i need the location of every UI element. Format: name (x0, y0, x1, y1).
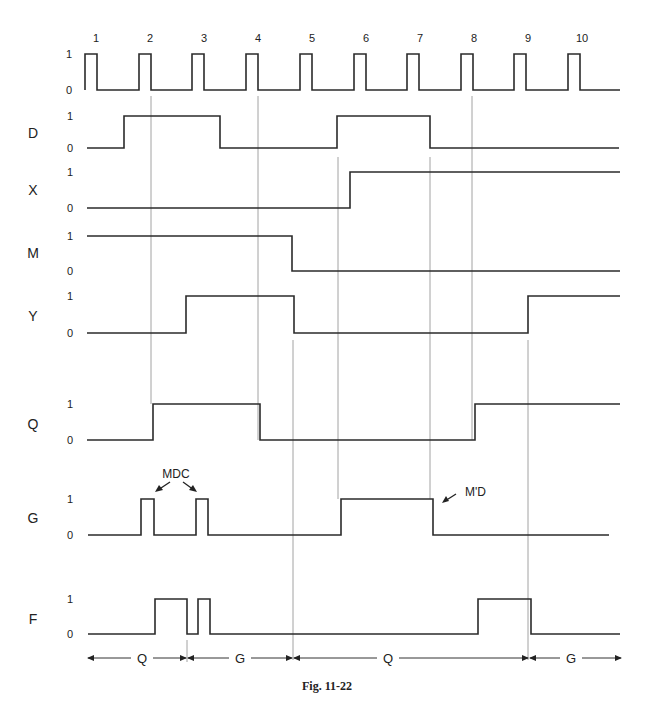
level-1-label: 1 (67, 290, 73, 302)
signal-name: X (28, 182, 38, 198)
segment-label: Q (383, 651, 393, 666)
segment-label: G (566, 651, 576, 666)
arrowhead-right-icon (286, 655, 293, 661)
segment-label: Q (137, 651, 147, 666)
clock-pulse-number: 4 (255, 32, 261, 44)
level-0-label: 0 (67, 142, 73, 154)
clock-pulse-number: 6 (363, 32, 369, 44)
signal-g: G10 (28, 493, 609, 541)
signal-name: D (28, 125, 38, 141)
level-1-label: 1 (67, 110, 73, 122)
level-1-label: 1 (67, 230, 73, 242)
clock-pulse-number: 10 (576, 32, 588, 44)
waveform (87, 296, 620, 333)
figure-caption: Fig. 11-22 (302, 679, 352, 693)
signal-name: Q (28, 416, 39, 432)
level-0-label: 0 (67, 327, 73, 339)
signal-name: G (28, 510, 39, 526)
clock-waveform: 1234567891010 (66, 32, 620, 96)
waveform (87, 116, 619, 148)
level-0-label: 0 (67, 434, 73, 446)
mdc-label: MDC (162, 467, 190, 481)
segment-q: Q (293, 651, 529, 666)
level-1-label: 1 (67, 493, 73, 505)
level-0-label: 0 (67, 628, 73, 640)
waveform (88, 599, 620, 634)
clock-pulse-number: 1 (93, 32, 99, 44)
clock-level-1: 1 (66, 48, 72, 60)
level-1-label: 1 (67, 398, 73, 410)
level-0-label: 0 (67, 529, 73, 541)
arrowhead-left-icon (87, 655, 94, 661)
clock-pulse-number: 7 (417, 32, 423, 44)
segment-g: G (529, 651, 622, 666)
arrowhead-left-icon (187, 655, 194, 661)
clock-pulse-number: 2 (147, 32, 153, 44)
interval-segments: QGQG (87, 651, 622, 666)
clock-pulse-number: 8 (471, 32, 477, 44)
clock-pulse-number: 9 (525, 32, 531, 44)
level-1-label: 1 (67, 593, 73, 605)
signal-y: Y10 (28, 290, 620, 339)
signal-d: D10 (28, 110, 619, 154)
signal-q: Q10 (28, 398, 620, 446)
signal-x: X10 (28, 166, 620, 214)
clock-pulse-number: 5 (309, 32, 315, 44)
arrowhead-right-icon (180, 655, 187, 661)
segment-label: G (235, 651, 245, 666)
arrowhead-left-icon (293, 655, 300, 661)
clock-wave (85, 54, 620, 90)
mdc-arrowhead-left-icon (155, 485, 163, 492)
level-1-label: 1 (67, 166, 73, 178)
signal-name: M (27, 245, 39, 261)
annotations: MDC M'D (155, 467, 486, 503)
waveform (87, 236, 620, 271)
clock-pulse-number: 3 (201, 32, 207, 44)
mdc-arrowhead-right-icon (189, 485, 197, 492)
arrowhead-left-icon (529, 655, 536, 661)
signal-f: F10 (29, 593, 620, 640)
signal-m: M10 (27, 230, 620, 277)
level-0-label: 0 (67, 265, 73, 277)
guide-lines (151, 96, 528, 662)
level-0-label: 0 (67, 202, 73, 214)
signal-name: Y (28, 308, 38, 324)
waveform (88, 499, 609, 535)
timing-diagram: 1234567891010 D10X10M10Y10Q10G10F10 MDC … (0, 0, 656, 714)
arrowhead-right-icon (615, 655, 622, 661)
signal-name: F (29, 611, 38, 627)
signal-waveforms: D10X10M10Y10Q10G10F10 (27, 110, 620, 640)
clock-level-0: 0 (66, 84, 72, 96)
segment-g: G (187, 651, 293, 666)
segment-q: Q (87, 651, 187, 666)
mpd-label: M'D (465, 485, 486, 499)
waveform (87, 404, 620, 440)
mpd-arrowhead-icon (442, 496, 449, 503)
waveform (87, 172, 620, 208)
